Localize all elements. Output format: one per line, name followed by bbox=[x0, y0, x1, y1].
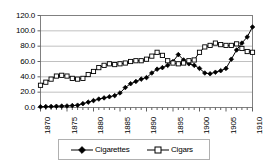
y-tick-label: 60.0 bbox=[5, 58, 35, 66]
data-point-marker bbox=[176, 62, 180, 66]
data-point-marker bbox=[224, 43, 228, 47]
data-point-marker bbox=[70, 76, 74, 80]
x-tick-label: 1885 bbox=[124, 117, 132, 134]
data-point-marker bbox=[123, 61, 127, 65]
data-point-marker bbox=[203, 45, 207, 49]
x-tick-label: 1910 bbox=[256, 117, 264, 134]
data-point-marker bbox=[118, 62, 122, 66]
data-point-marker bbox=[187, 59, 191, 63]
data-point-marker bbox=[171, 61, 175, 65]
data-point-marker bbox=[49, 77, 53, 81]
data-point-marker bbox=[192, 58, 196, 62]
data-point-marker bbox=[129, 59, 133, 63]
legend-label-cigarettes: Cigarettes bbox=[95, 146, 129, 154]
data-point-marker bbox=[250, 50, 254, 54]
data-point-marker bbox=[235, 42, 239, 46]
data-point-marker bbox=[160, 53, 164, 57]
data-point-marker bbox=[144, 57, 148, 61]
legend-item-cigars: Cigars bbox=[147, 145, 193, 155]
x-tick-label: 1890 bbox=[150, 117, 158, 134]
x-tick-label: 1895 bbox=[177, 117, 185, 134]
chart-legend: Cigarettes Cigars bbox=[58, 139, 210, 160]
data-point-marker bbox=[139, 59, 143, 63]
x-tick-label: 1905 bbox=[230, 117, 238, 134]
data-point-marker bbox=[150, 54, 154, 58]
data-point-marker bbox=[60, 73, 64, 77]
legend-label-cigars: Cigars bbox=[171, 146, 193, 154]
data-point-marker bbox=[245, 49, 249, 53]
data-point-marker bbox=[197, 50, 201, 54]
data-point-marker bbox=[65, 74, 69, 78]
data-point-marker bbox=[76, 77, 80, 81]
x-tick-label: 1870 bbox=[44, 117, 52, 134]
data-point-marker bbox=[208, 43, 212, 47]
x-tick-label: 1875 bbox=[71, 117, 79, 134]
data-point-marker bbox=[219, 43, 223, 47]
data-point-marker bbox=[240, 46, 244, 50]
data-point-marker bbox=[102, 63, 106, 67]
y-tick-label: 20.0 bbox=[5, 88, 35, 96]
data-point-marker bbox=[97, 66, 101, 70]
data-point-marker bbox=[86, 72, 90, 76]
data-point-marker bbox=[166, 59, 170, 63]
data-point-marker bbox=[155, 50, 159, 54]
y-tick-label: 40.0 bbox=[5, 73, 35, 81]
x-tick-label: 1900 bbox=[203, 117, 211, 134]
legend-marker-open-square-icon bbox=[147, 145, 169, 155]
data-point-marker bbox=[38, 83, 42, 87]
data-point-marker bbox=[44, 80, 48, 84]
data-point-marker bbox=[113, 62, 117, 66]
y-tick-label: 120.0 bbox=[5, 12, 35, 20]
data-point-marker bbox=[81, 76, 85, 80]
data-point-marker bbox=[213, 41, 217, 45]
data-point-marker bbox=[91, 69, 95, 73]
x-tick-label: 1880 bbox=[97, 117, 105, 134]
data-point-marker bbox=[107, 62, 111, 66]
data-point-marker bbox=[134, 59, 138, 63]
legend-marker-filled-diamond-icon bbox=[71, 145, 93, 155]
y-tick-label: 0.0 bbox=[5, 104, 35, 112]
legend-item-cigarettes: Cigarettes bbox=[71, 145, 129, 155]
data-point-marker bbox=[229, 43, 233, 47]
data-point-marker bbox=[54, 74, 58, 78]
y-tick-label: 80.0 bbox=[5, 42, 35, 50]
cigarette-cigar-consumption-chart: 0.020.040.060.080.0100.0120.0 1870187518… bbox=[0, 0, 267, 164]
data-point-marker bbox=[182, 61, 186, 65]
y-tick-label: 100.0 bbox=[5, 27, 35, 35]
